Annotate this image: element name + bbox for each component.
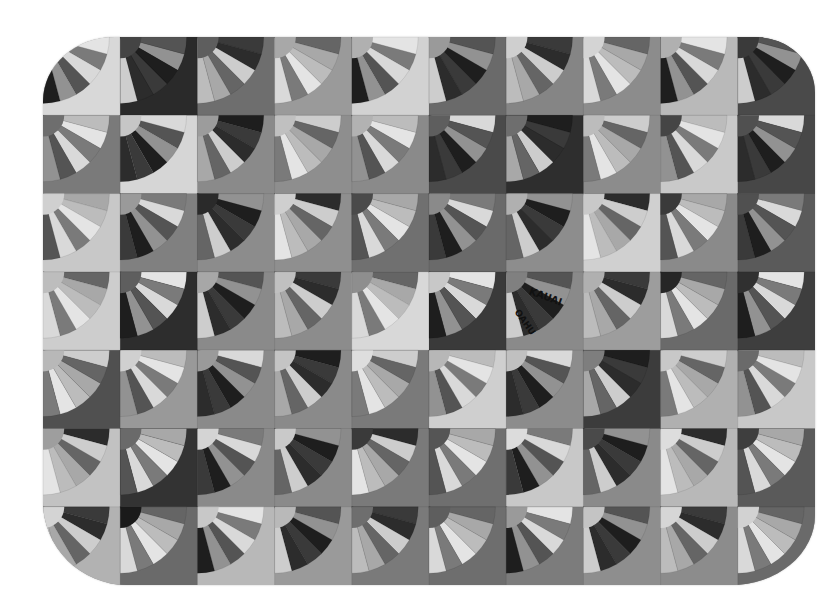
fan-block	[120, 272, 198, 351]
fan-block	[120, 194, 198, 273]
fan-block	[197, 272, 275, 351]
fan-block	[506, 507, 584, 585]
fan-block	[429, 429, 507, 508]
fan-block	[120, 37, 198, 116]
fan-block	[506, 194, 584, 273]
fan-block	[738, 115, 815, 194]
fan-block	[43, 194, 121, 273]
fan-block	[352, 37, 430, 116]
fan-block	[661, 429, 739, 508]
fan-block	[429, 350, 507, 429]
fan-block	[43, 115, 121, 194]
fan-block	[43, 350, 121, 429]
fan-block	[120, 507, 198, 585]
fan-block	[506, 115, 584, 194]
fan-block	[738, 37, 815, 116]
fan-block	[583, 272, 661, 351]
fan-block	[738, 507, 815, 585]
fan-block	[738, 272, 815, 351]
fan-block	[429, 272, 507, 351]
fan-block	[43, 429, 121, 508]
fan-block	[583, 194, 661, 273]
fan-block	[506, 350, 584, 429]
fan-block	[120, 115, 198, 194]
fan-block	[738, 350, 815, 429]
fan-block	[275, 272, 353, 351]
fan-block	[583, 507, 661, 585]
fan-block	[583, 429, 661, 508]
fan-block	[738, 429, 815, 508]
fan-block	[661, 507, 739, 585]
fan-block	[275, 350, 353, 429]
fan-block	[661, 350, 739, 429]
fan-block	[429, 37, 507, 116]
fan-block	[275, 429, 353, 508]
fan-block	[352, 350, 430, 429]
fan-block	[43, 37, 121, 116]
quilt: KAUAIOAHU	[43, 37, 815, 585]
fan-block	[661, 272, 739, 351]
fan-block	[352, 194, 430, 273]
fan-block	[197, 429, 275, 508]
fan-block	[429, 194, 507, 273]
fan-block	[583, 350, 661, 429]
fan-block	[661, 194, 739, 273]
fan-block	[120, 429, 198, 508]
fan-block	[275, 507, 353, 585]
fan-block	[120, 350, 198, 429]
fan-block	[352, 507, 430, 585]
fan-block	[197, 507, 275, 585]
fan-block	[197, 37, 275, 116]
fan-block	[506, 429, 584, 508]
fan-block	[738, 194, 815, 273]
fan-block	[352, 115, 430, 194]
fan-block	[583, 37, 661, 116]
fan-block	[43, 272, 121, 351]
fan-block	[275, 194, 353, 273]
fan-block	[661, 115, 739, 194]
quilt-blocks: KAUAIOAHU	[43, 37, 815, 585]
fan-block	[43, 507, 121, 585]
fan-block	[352, 272, 430, 351]
fan-block	[429, 115, 507, 194]
fan-block	[275, 37, 353, 116]
fan-block	[506, 37, 584, 116]
fan-block	[275, 115, 353, 194]
fan-block	[352, 429, 430, 508]
fan-block	[583, 115, 661, 194]
fan-block	[197, 194, 275, 273]
fan-block	[661, 37, 739, 116]
fan-block	[197, 115, 275, 194]
fan-block	[197, 350, 275, 429]
fan-block	[429, 507, 507, 585]
